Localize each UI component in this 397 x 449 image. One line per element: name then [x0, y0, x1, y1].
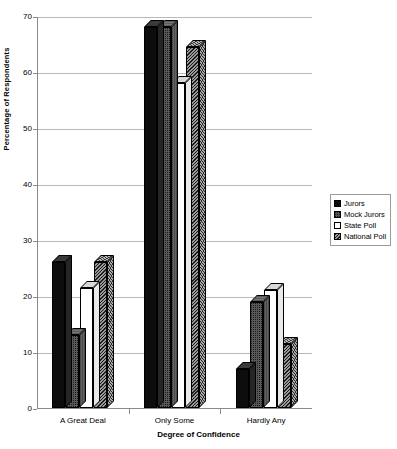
gridline	[38, 17, 312, 18]
x-tick-mark	[220, 409, 221, 414]
bar-side-face	[249, 362, 256, 408]
bar-front-face	[144, 27, 157, 408]
plot-area	[37, 17, 312, 409]
y-tick-label: 50	[2, 125, 32, 133]
legend-label: National Poll	[344, 231, 386, 242]
x-tick-label: Only Some	[129, 416, 221, 425]
bar	[52, 262, 65, 408]
bar-chart: Percentage of Respondents 01020304050607…	[0, 0, 397, 449]
bar-side-face	[171, 20, 178, 408]
bar-side-face	[291, 337, 298, 408]
y-tick-mark	[33, 409, 37, 410]
y-tick-mark	[33, 73, 37, 74]
y-tick-mark	[33, 129, 37, 130]
y-tick-mark	[33, 17, 37, 18]
legend-swatch-icon	[334, 222, 341, 229]
y-tick-mark	[33, 185, 37, 186]
y-tick-label: 0	[2, 405, 32, 413]
y-tick-mark	[33, 353, 37, 354]
y-tick-label: 40	[2, 181, 32, 189]
legend-item[interactable]: Mock Jurors	[334, 209, 386, 220]
legend-swatch-icon	[334, 211, 341, 218]
bar-front-face	[52, 262, 65, 408]
legend-label: Mock Jurors	[344, 209, 385, 220]
y-tick-mark	[33, 241, 37, 242]
legend-label: Jurors	[344, 198, 365, 209]
x-tick-label: Hardly Any	[220, 416, 312, 425]
bar-side-face	[185, 76, 192, 408]
x-tick-mark	[129, 409, 130, 414]
y-tick-label: 20	[2, 293, 32, 301]
x-axis-title: Degree of Confidence	[0, 430, 397, 439]
chart-legend: JurorsMock JurorsState PollNational Poll	[330, 194, 391, 246]
bar-side-face	[199, 40, 206, 408]
y-tick-mark	[33, 297, 37, 298]
bar-side-face	[93, 281, 100, 408]
y-tick-label: 10	[2, 349, 32, 357]
bar	[144, 27, 157, 408]
legend-swatch-icon	[334, 233, 341, 240]
bar-side-face	[107, 255, 114, 408]
legend-label: State Poll	[344, 220, 376, 231]
x-tick-label: A Great Deal	[37, 416, 129, 425]
bar-side-face	[157, 20, 164, 408]
legend-swatch-icon	[334, 200, 341, 207]
bar-side-face	[277, 283, 284, 408]
legend-item[interactable]: National Poll	[334, 231, 386, 242]
bar-side-face	[65, 255, 72, 408]
y-tick-label: 70	[2, 13, 32, 21]
legend-item[interactable]: State Poll	[334, 220, 386, 231]
y-tick-label: 60	[2, 69, 32, 77]
y-tick-label: 30	[2, 237, 32, 245]
bar-front-face	[236, 369, 249, 408]
bar-side-face	[79, 328, 86, 408]
legend-item[interactable]: Jurors	[334, 198, 386, 209]
bar	[236, 369, 249, 408]
y-axis-title: Percentage of Respondents	[0, 34, 14, 164]
bar-side-face	[263, 295, 270, 408]
